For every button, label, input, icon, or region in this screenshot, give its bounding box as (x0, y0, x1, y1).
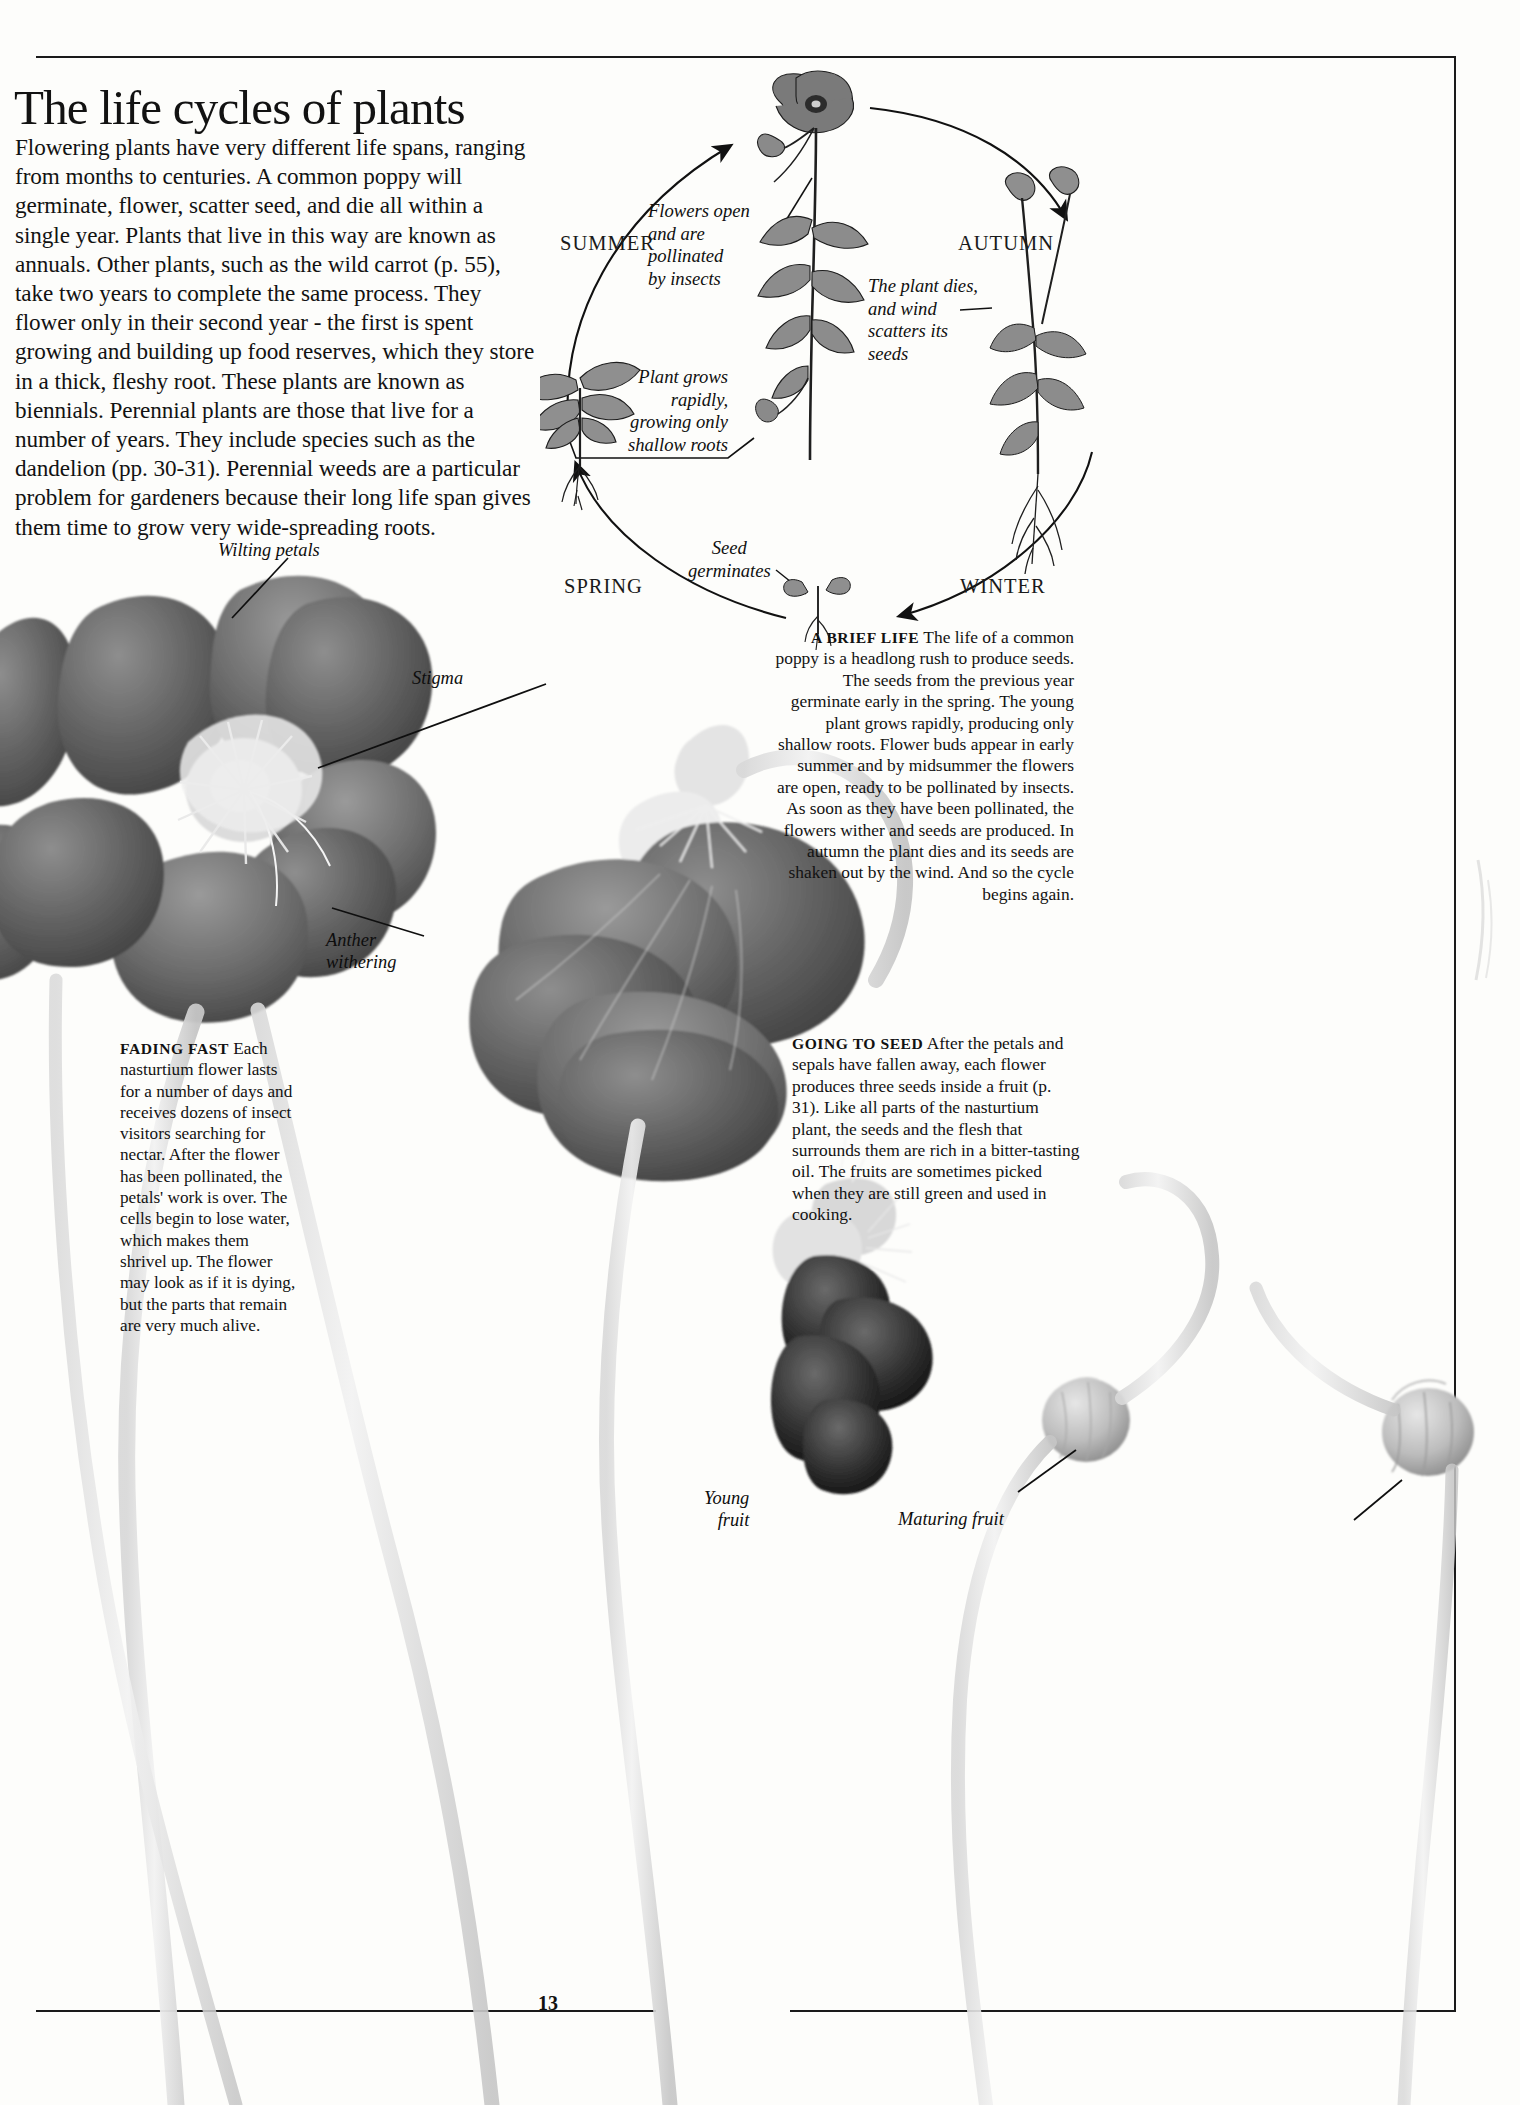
photo-label-stigma: Stigma (412, 668, 463, 690)
photo-label-young-fruit: Youngfruit (704, 1488, 749, 1531)
photo-label-wilting-petals: Wilting petals (218, 540, 320, 562)
photo-label-anther-withering: Antherwithering (326, 930, 397, 973)
page-number: 13 (0, 1992, 1096, 2015)
book-page: The life cycles of plants Flowering plan… (0, 0, 1520, 2105)
photo-leader-lines (0, 0, 1520, 2105)
photo-label-maturing-fruit: Maturing fruit (898, 1509, 1004, 1531)
